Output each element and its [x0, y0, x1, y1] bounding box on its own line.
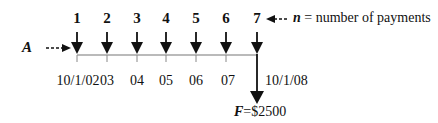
payment-arrows	[71, 32, 263, 54]
date-label: 07	[221, 73, 235, 89]
period-number: 1	[73, 10, 81, 27]
n-variable: n	[293, 10, 301, 25]
period-number: 4	[162, 10, 170, 27]
period-number: 5	[192, 10, 200, 27]
period-number: 3	[133, 10, 141, 27]
timeline-ticks	[77, 55, 226, 62]
period-number: 6	[222, 10, 230, 27]
future-value-amount: =$2500	[243, 104, 286, 119]
payment-label-A: A	[22, 39, 32, 56]
n-pointer	[266, 15, 289, 23]
date-label: 03	[100, 73, 114, 89]
payment-A-pointer	[46, 44, 71, 52]
date-label: 10/1/02	[57, 73, 100, 89]
F-variable: F	[234, 104, 243, 119]
future-value-arrow	[250, 54, 264, 104]
future-value-label: F=$2500	[234, 104, 286, 120]
date-label: 06	[189, 73, 203, 89]
date-label: 05	[159, 73, 173, 89]
n-annotation: n = number of payments	[293, 10, 431, 26]
period-number: 2	[103, 10, 111, 27]
date-label: 04	[130, 73, 144, 89]
n-description: = number of payments	[301, 10, 431, 25]
date-label-end: 10/1/08	[265, 73, 308, 89]
period-number: 7	[253, 10, 261, 27]
